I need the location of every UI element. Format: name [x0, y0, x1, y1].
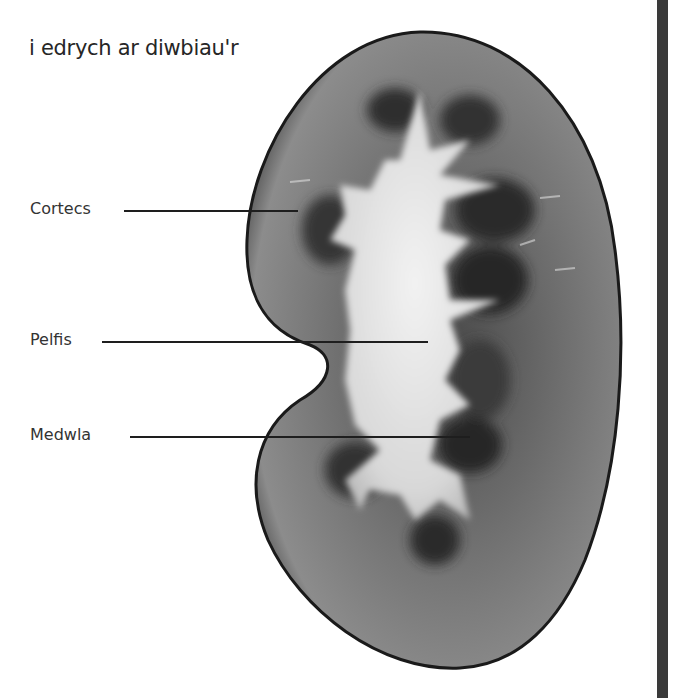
leader-line-pelfis — [102, 341, 428, 343]
leader-line-cortecs — [124, 210, 298, 212]
leader-line-medwla — [130, 436, 470, 438]
kidney-illustration — [0, 0, 679, 698]
label-medwla: Medwla — [30, 425, 91, 444]
label-pelfis: Pelfis — [30, 330, 72, 349]
label-cortecs: Cortecs — [30, 199, 91, 218]
page-side-bar — [657, 0, 668, 698]
